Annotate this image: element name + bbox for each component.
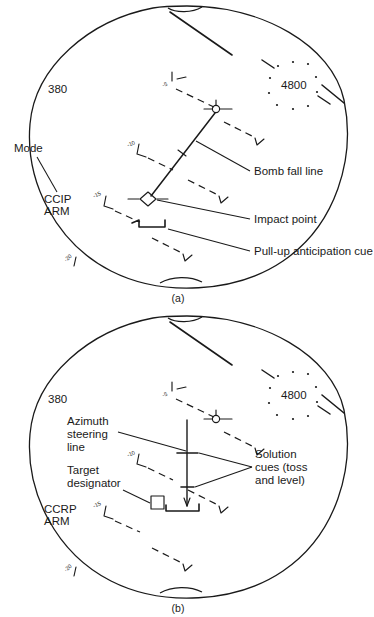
pitch-ladder-bar-minus20-b: -20 xyxy=(63,563,76,576)
hud-bezel-notch-bottom-a xyxy=(160,278,202,283)
pitch-ladder-bar-minus10-b: -10 xyxy=(126,449,173,480)
bomb-fall-line-symbol-a xyxy=(151,113,215,196)
callout-azimuth-line3-b: line xyxy=(67,441,85,453)
pitch-ladder-bar-minus10-a: -10 xyxy=(126,139,173,170)
figure-a-ccip-hud: 380 4800 CCIP ARM -5 - xyxy=(0,0,374,310)
svg-text:-5: -5 xyxy=(161,391,168,398)
pitch-ladder-bar-minus15-b: -15 xyxy=(92,500,140,532)
target-designator-symbol-b xyxy=(151,496,164,509)
hud-bezel-notch-bottom-b xyxy=(160,588,202,593)
mode-readout-line2-b: ARM xyxy=(44,515,70,527)
altitude-readout-a: 4800 xyxy=(281,79,307,91)
svg-text:-15: -15 xyxy=(92,190,102,199)
callout-impact-point-label-a: Impact point xyxy=(254,213,317,225)
callout-mode-leader-a xyxy=(37,157,57,192)
svg-text:-20: -20 xyxy=(63,563,73,573)
pitch-ladder-bar-minus20-a: -20 xyxy=(63,253,76,266)
lower-bracket-cue-symbol-b xyxy=(166,504,199,511)
hud-bezel-outline-b xyxy=(29,316,347,598)
pitch-ladder-right-bars-b xyxy=(152,432,264,571)
callout-pull-up-cue-leader-a xyxy=(168,229,250,251)
callout-solution-cues-line2-b: cues (toss xyxy=(255,461,308,473)
callout-mode-label-a: Mode xyxy=(14,142,43,154)
horizon-reference-line-b xyxy=(170,322,232,365)
svg-text:-10: -10 xyxy=(126,449,136,458)
airspeed-readout-a: 380 xyxy=(48,83,67,95)
hud-bezel-notch-top-a xyxy=(168,7,202,12)
callout-target-designator-leader-b xyxy=(123,490,150,503)
callout-impact-point-leader-a xyxy=(157,200,250,219)
mode-readout-line1-b: CCRP xyxy=(44,503,77,515)
svg-text:-10: -10 xyxy=(126,139,136,148)
flight-path-marker-a xyxy=(204,100,232,113)
pull-up-anticipation-cue-symbol-a xyxy=(132,220,165,227)
airspeed-readout-b: 380 xyxy=(48,393,67,405)
hud-bezel-notch-top-b xyxy=(168,317,202,322)
callout-target-designator-line2-b: designator xyxy=(67,477,121,489)
callout-solution-cues-line3-b: and level) xyxy=(255,474,305,486)
figure-caption-a: (a) xyxy=(172,292,185,304)
altitude-readout-b: 4800 xyxy=(281,389,307,401)
pitch-ladder-bar-minus5-a: -5 xyxy=(161,72,214,107)
flight-path-marker-b xyxy=(204,410,232,423)
horizon-reference-line-a xyxy=(170,12,232,55)
callout-solution-cues-leader-upper-b xyxy=(199,453,252,467)
callout-bomb-fall-line-label-a: Bomb fall line xyxy=(254,165,323,177)
callout-azimuth-line1-b: Azimuth xyxy=(67,415,109,427)
svg-text:-20: -20 xyxy=(63,253,73,263)
callout-pull-up-cue-label-a: Pull-up anticipation cue xyxy=(254,245,373,257)
svg-text:-15: -15 xyxy=(92,500,102,509)
callout-azimuth-leader-b xyxy=(118,432,186,451)
callout-solution-cues-leader-lower-b xyxy=(195,467,252,487)
impact-point-symbol-a xyxy=(128,192,168,206)
figure-caption-b: (b) xyxy=(172,602,185,614)
callout-target-designator-line1-b: Target xyxy=(67,464,100,476)
callout-azimuth-line2-b: steering xyxy=(67,428,108,440)
pitch-ladder-bar-minus5-b: -5 xyxy=(161,382,214,417)
callout-bomb-fall-line-leader-a xyxy=(196,141,250,171)
mode-readout-line2-a: ARM xyxy=(44,205,70,217)
callout-solution-cues-line1-b: Solution xyxy=(255,448,297,460)
pitch-ladder-bar-minus15-a: -15 xyxy=(92,190,140,222)
figure-b-ccrp-hud: 380 4800 CCRP ARM -5 - xyxy=(0,310,374,617)
mode-readout-line1-a: CCIP xyxy=(44,193,72,205)
svg-text:-5: -5 xyxy=(161,81,168,88)
